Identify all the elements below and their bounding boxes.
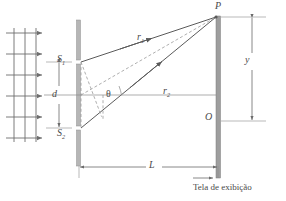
label-ray-r1-subscript: 1 xyxy=(141,37,144,44)
double-slit-interference-diagram: P r1 r2 S1 S2 d θ y O L Tela de exibição xyxy=(0,0,286,201)
ray-r1-arrow xyxy=(120,38,152,49)
point-P-marker xyxy=(214,15,217,18)
barrier-segment-upper xyxy=(77,20,81,60)
point-markers xyxy=(214,15,217,18)
barrier-with-slits xyxy=(77,20,81,166)
label-screen-offset-y: y xyxy=(245,55,249,65)
label-angle-theta: θ xyxy=(106,89,111,99)
screen-bar xyxy=(216,16,221,178)
screen-caption: Tela de exibição xyxy=(193,182,252,192)
label-center-O: O xyxy=(205,112,212,122)
label-slit-S2: S2 xyxy=(57,128,65,140)
label-ray-r1: r1 xyxy=(137,32,144,44)
label-ray-r2: r2 xyxy=(163,86,170,98)
theta-arc xyxy=(119,86,122,95)
viewing-screen xyxy=(216,16,221,178)
dashed-axis-to-P xyxy=(81,17,216,95)
light-rays xyxy=(81,17,216,128)
label-distance-L: L xyxy=(149,160,155,170)
label-point-P: P xyxy=(215,1,221,11)
diagram-canvas xyxy=(0,0,286,201)
ray-r2-arrow xyxy=(130,61,162,87)
incoming-wavefronts xyxy=(6,28,42,142)
label-slit-S1-subscript: 1 xyxy=(62,59,65,66)
label-ray-r2-subscript: 2 xyxy=(167,91,170,98)
barrier-segment-lower xyxy=(77,130,81,166)
dimension-y xyxy=(221,17,266,121)
label-slit-S1: S1 xyxy=(57,54,65,66)
label-slit-separation-d: d xyxy=(52,89,57,99)
label-slit-S2-subscript: 2 xyxy=(62,133,65,140)
